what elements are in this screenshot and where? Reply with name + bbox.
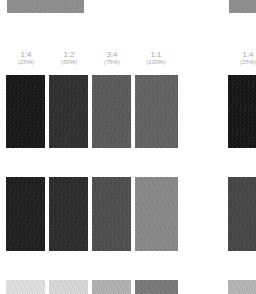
swatch-top-left bbox=[7, 0, 84, 13]
ratio-label: 3:4 bbox=[92, 50, 132, 59]
swatch-row3-col1 bbox=[6, 280, 45, 294]
column-label-2: 1:2 (50%) bbox=[49, 50, 89, 66]
percent-label: (75%) bbox=[92, 59, 132, 66]
ratio-label: 1:2 bbox=[49, 50, 89, 59]
swatch-row2-right bbox=[228, 177, 256, 251]
percent-label: (25%) bbox=[228, 59, 256, 66]
swatch-row2-col4 bbox=[135, 177, 178, 251]
swatch-row3-col4 bbox=[135, 280, 178, 294]
column-label-3: 3:4 (75%) bbox=[92, 50, 132, 66]
percent-label: (25%) bbox=[6, 59, 46, 66]
column-label-4: 1:1 (100%) bbox=[136, 50, 176, 66]
ratio-label: 1:4 bbox=[6, 50, 46, 59]
swatch-row1-col2 bbox=[49, 75, 88, 148]
swatch-row1-right bbox=[228, 75, 256, 148]
ratio-label: 1:4 bbox=[228, 50, 256, 59]
swatch-row2-col2 bbox=[49, 177, 88, 251]
percent-label: (100%) bbox=[136, 59, 176, 66]
swatch-row1-col3 bbox=[92, 75, 131, 148]
swatch-top-right bbox=[229, 0, 256, 13]
swatch-row3-col3 bbox=[92, 280, 131, 294]
swatch-row2-col1 bbox=[6, 177, 45, 251]
ratio-label: 1:1 bbox=[136, 50, 176, 59]
swatch-row3-right bbox=[228, 280, 256, 294]
column-label-1: 1:4 (25%) bbox=[6, 50, 46, 66]
swatch-row2-col3 bbox=[92, 177, 131, 251]
percent-label: (50%) bbox=[49, 59, 89, 66]
swatch-row3-col2 bbox=[49, 280, 88, 294]
column-label-right: 1:4 (25%) bbox=[228, 50, 256, 66]
swatch-row1-col4 bbox=[135, 75, 178, 148]
swatch-row1-col1 bbox=[6, 75, 45, 148]
